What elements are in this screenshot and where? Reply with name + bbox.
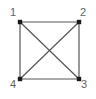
node-label-1: 1 <box>10 7 16 18</box>
node-label-4: 4 <box>10 79 16 90</box>
node-label-3: 3 <box>81 79 87 90</box>
graph-node-2 <box>77 20 81 24</box>
node-label-2: 2 <box>80 7 86 18</box>
graph-diagram: 1 2 3 4 <box>0 0 96 99</box>
graph-node-1 <box>18 20 22 24</box>
edge-layer <box>20 22 79 79</box>
graph-node-4 <box>18 77 22 81</box>
